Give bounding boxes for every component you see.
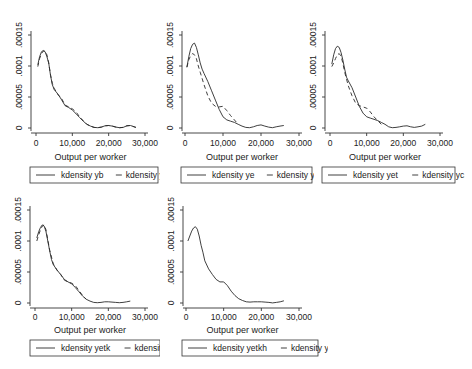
series-line-main bbox=[187, 43, 284, 128]
y-tick-label: .00015 bbox=[165, 22, 175, 48]
y-tick-label: .0001 bbox=[308, 55, 318, 77]
y-tick-label: .0001 bbox=[14, 55, 24, 77]
legend-label-main: kdensity yetkh bbox=[213, 343, 267, 353]
x-axis-title: Output per worker bbox=[54, 152, 126, 162]
y-tick-label: .00005 bbox=[13, 259, 23, 285]
legend: kdensity yetkkdensity yc bbox=[30, 340, 160, 356]
x-tick-label: 20,000 bbox=[96, 138, 122, 148]
y-tick-label: 0 bbox=[308, 125, 318, 130]
y-tick-label: .00005 bbox=[166, 259, 176, 285]
x-tick-label: 30,000 bbox=[427, 138, 453, 148]
legend: kdensity yetkdensity yc bbox=[322, 167, 465, 183]
x-axis-title: Output per worker bbox=[54, 325, 126, 335]
x-tick-label: 10,000 bbox=[210, 138, 236, 148]
y-tick-label: 0 bbox=[166, 300, 176, 305]
x-tick-label: 20,000 bbox=[390, 138, 416, 148]
series-line-main bbox=[188, 227, 284, 303]
y-tick-label: 0 bbox=[13, 300, 23, 305]
x-tick-label: 10,000 bbox=[59, 138, 85, 148]
x-axis-title: Output per worker bbox=[349, 152, 421, 162]
y-tick-label: .00005 bbox=[14, 84, 24, 110]
series-line-yc bbox=[187, 54, 238, 125]
x-tick-label: 30,000 bbox=[286, 312, 312, 322]
chart-panel-yetk: 0.00005.0001.00015010,00020,00030,000Out… bbox=[0, 175, 160, 361]
y-tick-label: .0001 bbox=[13, 230, 23, 252]
y-tick-label: .00005 bbox=[165, 84, 175, 110]
x-tick-label: 0 bbox=[184, 312, 189, 322]
x-tick-label: 0 bbox=[183, 138, 188, 148]
y-tick-label: .00005 bbox=[308, 84, 318, 110]
y-tick-label: 0 bbox=[14, 125, 24, 130]
legend-label-yc: kdensity yc bbox=[422, 170, 465, 180]
chart-panel-yet: 0.00005.0001.00015010,00020,00030,000Out… bbox=[296, 0, 472, 186]
x-axis-title: Output per worker bbox=[206, 152, 278, 162]
legend-label-main: kdensity yetk bbox=[61, 343, 111, 353]
series-line-main bbox=[37, 225, 131, 303]
x-tick-label: 20,000 bbox=[248, 138, 274, 148]
x-tick-label: 0 bbox=[328, 138, 333, 148]
legend: kdensity yetkhkdensity yc bbox=[182, 340, 328, 356]
y-tick-label: .00015 bbox=[166, 197, 176, 223]
x-tick-label: 0 bbox=[33, 312, 38, 322]
y-tick-label: .0001 bbox=[165, 55, 175, 77]
x-tick-label: 10,000 bbox=[211, 312, 237, 322]
x-tick-label: 20,000 bbox=[248, 312, 274, 322]
chart-panel-yetkh: 0.00005.0001.00015010,00020,00030,000Out… bbox=[152, 175, 328, 361]
chart-panel-yb: 0.00005.0001.00015010,00020,00030,000Out… bbox=[0, 0, 160, 186]
series-line-main bbox=[332, 46, 426, 128]
series-line-yc bbox=[332, 54, 382, 125]
legend-label-yc: kdensity yc bbox=[291, 343, 328, 353]
y-tick-label: .00015 bbox=[14, 22, 24, 48]
y-tick-label: .00015 bbox=[13, 197, 23, 223]
chart-panel-ye: 0.00005.0001.00015010,00020,00030,000Out… bbox=[152, 0, 314, 186]
y-tick-label: .00015 bbox=[308, 22, 318, 48]
x-tick-label: 20,000 bbox=[95, 312, 121, 322]
x-tick-label: 10,000 bbox=[354, 138, 380, 148]
series-line-yc bbox=[38, 51, 136, 128]
x-tick-label: 0 bbox=[34, 138, 39, 148]
series-line-main bbox=[38, 51, 136, 128]
x-tick-label: 10,000 bbox=[59, 312, 85, 322]
series-line-yc bbox=[37, 225, 87, 299]
x-axis-title: Output per worker bbox=[206, 325, 278, 335]
y-tick-label: .0001 bbox=[166, 230, 176, 252]
y-tick-label: 0 bbox=[165, 125, 175, 130]
legend-label-main: kdensity yet bbox=[353, 170, 399, 180]
